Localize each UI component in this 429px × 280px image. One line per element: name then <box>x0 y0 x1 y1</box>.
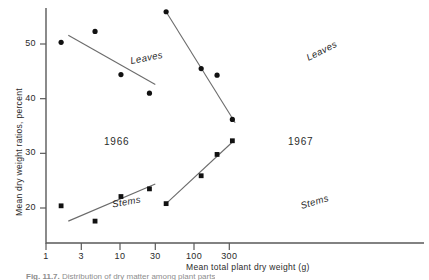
y-tick-label: 20 <box>14 202 36 212</box>
x-tick-label: 100 <box>180 251 208 261</box>
x-tick-label: 300 <box>215 251 243 261</box>
x-tick-label: 1 <box>32 251 60 261</box>
panel-label-1966: 1966 <box>104 136 129 147</box>
x-tick-label: 10 <box>106 251 134 261</box>
x-axis-label: Mean total plant dry weight (g) <box>186 262 310 272</box>
caption-prefix: Fig. 11.7. <box>26 272 60 280</box>
caption-text: Distribution of dry matter among plant p… <box>62 272 215 280</box>
figure-container: Mean dry weight ratios, percent Mean tot… <box>0 0 429 280</box>
x-tick-label: 3 <box>67 251 95 261</box>
y-tick-label: 40 <box>14 93 36 103</box>
x-tick-label: 30 <box>141 251 169 261</box>
figure-caption: Fig. 11.7. Distribution of dry matter am… <box>26 272 215 280</box>
chart-axes <box>40 8 424 250</box>
data-points <box>59 9 235 223</box>
panel-label-1967: 1967 <box>288 136 313 147</box>
chart-canvas <box>0 0 429 280</box>
y-tick-label: 30 <box>14 147 36 157</box>
y-tick-label: 50 <box>14 38 36 48</box>
